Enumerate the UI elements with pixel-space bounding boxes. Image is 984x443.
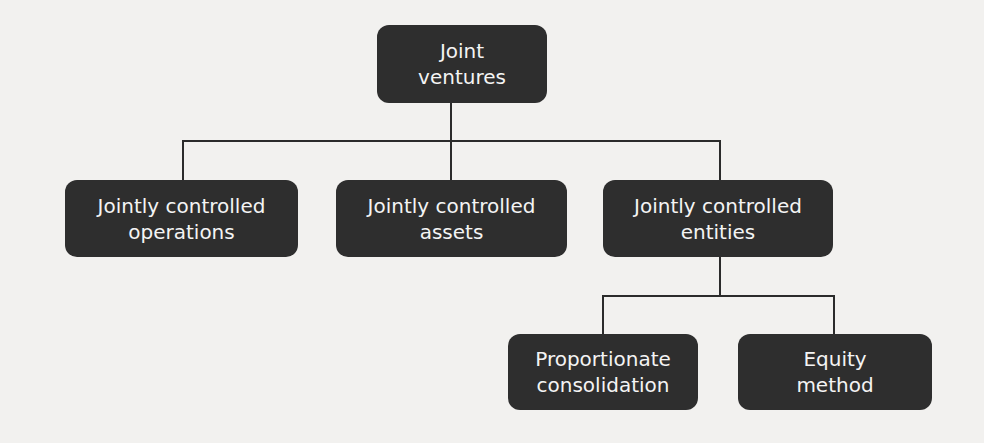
node-label-line: operations [128,219,234,245]
connector-to-equity [833,295,835,335]
connector-to-entities [719,140,721,181]
node-label-line: Jointly controlled [98,193,266,219]
node-label-line: method [796,372,873,398]
node-label-line: assets [420,219,484,245]
node-label-line: Jointly controlled [634,193,802,219]
node-proportionate-consolidation: Proportionate consolidation [508,334,698,410]
connector-entities-down [719,256,721,296]
node-label-line: Jointly controlled [368,193,536,219]
node-jointly-controlled-entities: Jointly controlled entities [603,180,833,257]
node-jointly-controlled-operations: Jointly controlled operations [65,180,298,257]
node-jointly-controlled-assets: Jointly controlled assets [336,180,567,257]
connector-root-down [450,103,452,142]
connector-to-assets [450,140,452,181]
node-label-line: Joint [440,38,484,64]
connector-level2-horizontal [602,295,835,297]
node-joint-ventures: Joint ventures [377,25,547,103]
node-label-line: ventures [418,64,506,90]
node-label-line: Proportionate [535,346,671,372]
connector-to-proportionate [602,295,604,335]
node-label-line: consolidation [537,372,670,398]
node-label-line: Equity [803,346,866,372]
connector-to-operations [182,140,184,181]
node-label-line: entities [681,219,756,245]
node-equity-method: Equity method [738,334,932,410]
